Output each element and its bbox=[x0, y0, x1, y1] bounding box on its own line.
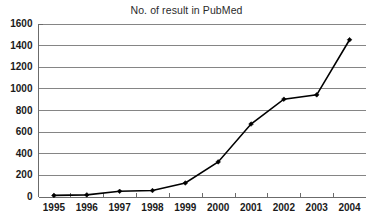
y-axis-label: 0 bbox=[27, 191, 33, 202]
x-axis-label: 1999 bbox=[174, 202, 197, 213]
x-axis-label: 2002 bbox=[273, 202, 296, 213]
data-point-marker bbox=[117, 189, 122, 194]
y-axis-label: 200 bbox=[16, 169, 33, 180]
x-axis-ticks-group bbox=[71, 193, 334, 198]
data-markers-group bbox=[52, 37, 352, 197]
data-series-group bbox=[54, 40, 350, 196]
data-point-marker bbox=[150, 188, 155, 193]
chart-container: No. of result in PubMed 0200400600800100… bbox=[0, 0, 373, 219]
x-axis-label: 1998 bbox=[141, 202, 164, 213]
x-axis-label: 2000 bbox=[207, 202, 230, 213]
y-axis-labels-group: 02004006008001000120014001600 bbox=[10, 18, 33, 202]
y-axis-label: 800 bbox=[16, 105, 33, 116]
x-axis-labels-group: 1995199619971998199920002001200220032004 bbox=[43, 202, 361, 213]
series-line-pubmed bbox=[54, 40, 350, 196]
y-axis-label: 1000 bbox=[10, 83, 33, 94]
x-axis-label: 1996 bbox=[76, 202, 99, 213]
x-axis-label: 1995 bbox=[43, 202, 66, 213]
line-chart-plot: 02004006008001000120014001600 1995199619… bbox=[0, 0, 373, 219]
y-axis-label: 1600 bbox=[10, 18, 33, 29]
y-axis-label: 1400 bbox=[10, 40, 33, 51]
x-axis-label: 2003 bbox=[306, 202, 329, 213]
y-axis-label: 400 bbox=[16, 148, 33, 159]
x-axis-label: 1997 bbox=[109, 202, 132, 213]
data-point-marker bbox=[84, 193, 89, 198]
x-axis-label: 2004 bbox=[338, 202, 361, 213]
gridlines-group bbox=[38, 25, 367, 176]
x-axis-label: 2001 bbox=[240, 202, 263, 213]
y-axis-label: 600 bbox=[16, 126, 33, 137]
y-axis-label: 1200 bbox=[10, 61, 33, 72]
